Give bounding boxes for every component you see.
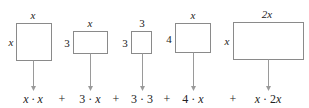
product-1: x · x — [22, 92, 43, 106]
rectangle-2-side-label: 3 — [64, 37, 70, 49]
rectangle-3-side-label: 3 — [122, 37, 128, 49]
rectangle-3-box — [132, 32, 152, 54]
product-4: 4 · x — [182, 92, 204, 106]
plus-operator-1: + — [59, 92, 66, 106]
arrow-head-icon — [88, 86, 93, 91]
plus-operator-3: + — [164, 92, 171, 106]
area-model-diagram: x x x 3 3 3 x 4 2x x x · x + 3 · — [0, 0, 309, 108]
rectangle-5-side-label: x — [224, 35, 230, 47]
rectangle-1-top-label: x — [30, 9, 36, 21]
plus-operator-2: + — [113, 92, 120, 106]
arrow-head-icon — [140, 86, 145, 91]
arrow-head-icon — [31, 86, 36, 91]
rectangle-2: x 3 — [64, 17, 107, 91]
product-2: 3 · x — [79, 92, 101, 106]
rectangle-4-side-label: 4 — [166, 33, 172, 45]
rectangle-4-top-label: x — [190, 9, 196, 21]
rectangle-1-box — [17, 24, 52, 61]
arrow-head-icon — [191, 86, 196, 91]
rectangle-1-side-label: x — [8, 36, 14, 48]
rectangle-1: x x — [8, 9, 52, 91]
rectangle-3: 3 3 — [122, 17, 151, 91]
plus-operator-4: + — [230, 92, 237, 106]
rectangle-4-box — [176, 24, 211, 53]
rectangle-2-top-label: x — [87, 17, 93, 29]
rectangle-5-box — [234, 23, 304, 60]
rectangle-4: x 4 — [166, 9, 210, 91]
rectangle-5-top-label: 2x — [262, 8, 273, 20]
arrow-head-icon — [266, 86, 271, 91]
rectangle-2-box — [74, 32, 108, 54]
sum-expression: x · x + 3 · x + 3 · 3 + 4 · x + x · 2x — [22, 92, 282, 106]
product-3: 3 · 3 — [131, 92, 153, 106]
rectangle-3-top-label: 3 — [139, 17, 145, 29]
rectangle-5: 2x x — [224, 8, 304, 91]
product-5: x · 2x — [254, 92, 282, 106]
